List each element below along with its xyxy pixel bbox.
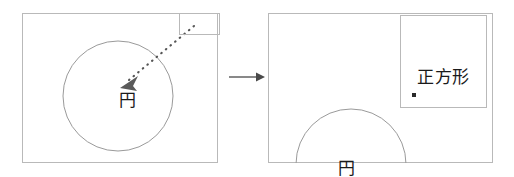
circle-shape-after-label: 円 xyxy=(338,160,356,177)
drag-arrowhead-icon xyxy=(120,76,138,91)
square-shape-before[interactable] xyxy=(179,13,220,35)
before-state-canvas: 円 xyxy=(22,13,218,163)
transition-arrow-icon xyxy=(228,66,266,88)
circle-shape-label: 円 xyxy=(119,92,137,109)
square-shape-label: 正方形 xyxy=(417,69,470,86)
diagram-root: 円 正方形 円 xyxy=(0,0,514,177)
square-handle-dot[interactable] xyxy=(412,93,416,97)
after-state-canvas: 正方形 円 xyxy=(268,13,493,163)
transition-arrow-head xyxy=(256,73,265,82)
before-shapes-svg xyxy=(23,14,219,164)
